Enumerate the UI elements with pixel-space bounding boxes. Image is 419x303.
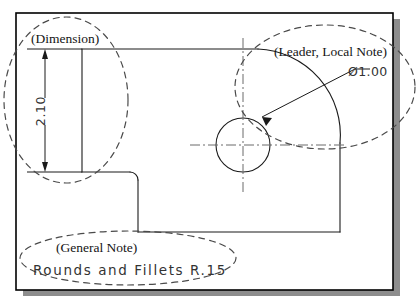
general-note-callout-label: (General Note) bbox=[56, 240, 137, 255]
general-note-text: Rounds and Fillets R.15 bbox=[33, 262, 227, 278]
drawing-canvas: 2.10 (Dimension) (Leader, Local Note) (G… bbox=[0, 0, 419, 303]
technical-drawing-figure: 2.10 (Dimension) (Leader, Local Note) (G… bbox=[0, 0, 419, 303]
dimension-value-text: 2.10 bbox=[33, 96, 48, 126]
leader-callout-label: (Leader, Local Note) bbox=[274, 44, 387, 59]
leader-diameter-text: Ø1.00 bbox=[348, 64, 388, 79]
dimension-callout-label: (Dimension) bbox=[31, 31, 99, 46]
